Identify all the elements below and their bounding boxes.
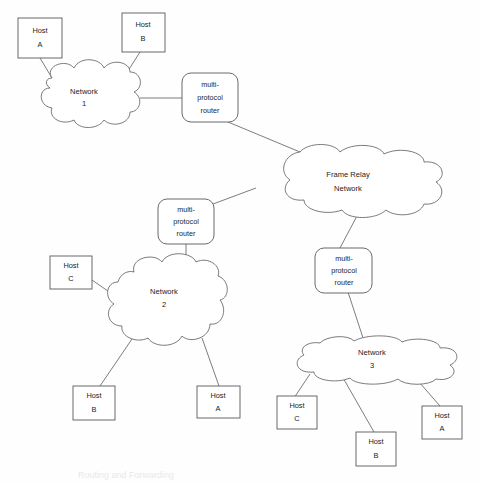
host-net2-c-label-line2: C <box>68 274 74 283</box>
router-3-label-line2: protocol <box>331 266 357 275</box>
router-1-label-line1: multi- <box>201 80 219 89</box>
cloud-network-1-label-line1: Network <box>70 87 98 96</box>
cloud-network-2-shape <box>108 254 228 346</box>
cloud-network-3-shape <box>297 336 457 384</box>
link-net3-hostc <box>294 374 310 398</box>
link-net2-hosta <box>202 338 219 386</box>
host-net3-a-label-line2: A <box>440 424 445 433</box>
router-3-label-line3: router <box>335 278 354 287</box>
host-net1-b-box <box>122 13 165 52</box>
cloud-network-3-label-line1: Network <box>358 348 386 357</box>
router-2-label-line3: router <box>177 229 196 238</box>
link-router3-net3 <box>348 292 364 341</box>
cloud-network-1-label-line2: 1 <box>82 99 86 108</box>
link-framerelay-router2 <box>213 188 256 204</box>
cloud-network-3-label-line2: 3 <box>370 361 374 370</box>
cloud-network-2[interactable]: Network 2 <box>108 254 228 346</box>
cloud-network-2-label-line2: 2 <box>162 300 166 309</box>
link-router1-framerelay <box>228 122 300 152</box>
host-net2-a-label-line2: A <box>216 404 221 413</box>
host-net3-b-label-line1: Host <box>368 437 383 446</box>
cloud-frame-relay-shape <box>284 145 443 218</box>
host-net3-a-label-line1: Host <box>434 411 449 420</box>
router-1-label-line3: router <box>201 106 220 115</box>
router-2[interactable]: multi- protocol router <box>158 199 214 244</box>
router-1-label-line2: protocol <box>197 93 223 102</box>
cloud-network-1[interactable]: Network 1 <box>41 60 140 128</box>
host-net2-b[interactable]: Host B <box>73 386 115 420</box>
host-net3-c-label-line2: C <box>294 414 300 423</box>
cloud-network-2-label-line1: Network <box>150 287 178 296</box>
host-net2-b-label-line1: Host <box>86 391 101 400</box>
host-net1-b-label-line2: B <box>141 34 146 43</box>
partial-caption: Routing and Forwarding <box>78 470 174 481</box>
network-diagram: Network 1 Frame Relay Network Network 2 … <box>0 0 480 482</box>
router-3-label-line1: multi- <box>335 254 353 263</box>
host-net1-a-box <box>18 18 62 58</box>
link-framerelay-router3 <box>340 214 358 248</box>
host-net2-c-label-line1: Host <box>63 261 78 270</box>
host-net3-a[interactable]: Host A <box>422 406 462 439</box>
network-diagram-canvas: Network 1 Frame Relay Network Network 2 … <box>0 0 480 482</box>
router-2-label-line2: protocol <box>173 217 199 226</box>
host-net2-b-label-line2: B <box>92 405 97 414</box>
router-2-label-line1: multi- <box>177 205 195 214</box>
host-net1-a[interactable]: Host A <box>18 18 62 58</box>
host-net1-b-label-line1: Host <box>135 20 150 29</box>
cloud-frame-relay-label-line1: Frame Relay <box>326 170 370 179</box>
cloud-frame-relay-label-line2: Network <box>334 184 362 193</box>
host-net2-a[interactable]: Host A <box>197 386 240 418</box>
router-3[interactable]: multi- protocol router <box>315 248 372 293</box>
host-net2-a-label-line1: Host <box>210 391 225 400</box>
host-net3-c-label-line1: Host <box>289 401 304 410</box>
router-1[interactable]: multi- protocol router <box>182 73 238 122</box>
host-net1-b[interactable]: Host B <box>122 13 165 52</box>
link-net2-hostb <box>100 336 134 386</box>
host-net1-a-label-line2: A <box>38 40 43 49</box>
host-net3-b[interactable]: Host B <box>356 432 396 466</box>
cloud-frame-relay[interactable]: Frame Relay Network <box>284 145 443 218</box>
host-net3-c[interactable]: Host C <box>277 396 317 429</box>
cloud-network-3[interactable]: Network 3 <box>297 336 457 384</box>
host-net3-b-label-line2: B <box>374 451 379 460</box>
host-net2-c[interactable]: Host C <box>50 256 92 289</box>
host-net1-a-label-line1: Host <box>32 26 47 35</box>
